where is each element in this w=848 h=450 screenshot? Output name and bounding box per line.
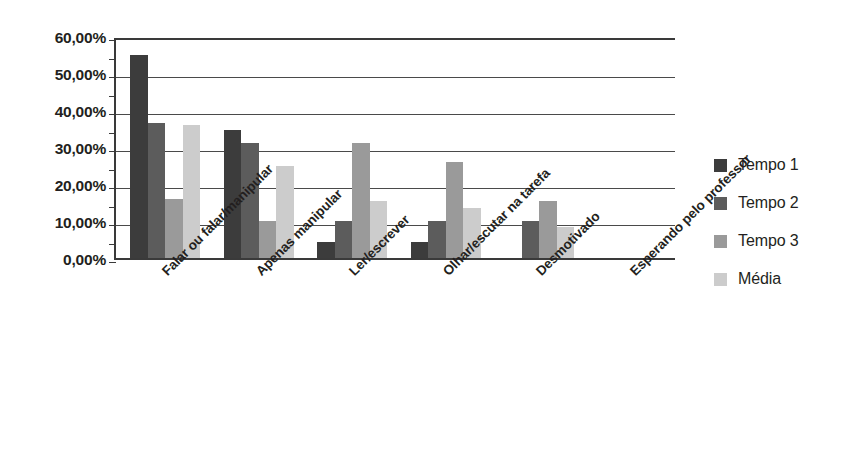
bar-chart: 60,00%50,00%40,00%30,00%20,00%10,00%0,00… xyxy=(0,0,848,450)
y-axis-label-1: 50,00% xyxy=(6,66,106,84)
y-axis-tick xyxy=(109,77,116,78)
y-axis-minor-tick xyxy=(109,207,116,208)
legend-swatch-icon xyxy=(714,159,727,172)
bar xyxy=(130,55,148,259)
legend-swatch-icon xyxy=(714,235,727,248)
y-axis-minor-tick xyxy=(109,133,116,134)
y-axis-tick-labels: 60,00%50,00%40,00%30,00%20,00%10,00%0,00… xyxy=(0,38,106,260)
bar xyxy=(352,143,370,258)
bar-group xyxy=(303,40,397,258)
y-axis-minor-tick xyxy=(109,59,116,60)
y-axis-label-0: 60,00% xyxy=(6,29,106,47)
bar-group xyxy=(397,40,491,258)
y-axis-tick xyxy=(109,40,116,41)
legend-swatch-icon xyxy=(714,273,727,286)
y-axis-tick xyxy=(109,225,116,226)
y-axis-tick xyxy=(109,151,116,152)
y-axis-label-5: 10,00% xyxy=(6,214,106,232)
bar xyxy=(428,221,446,258)
bar xyxy=(148,123,166,258)
legend-item-3[interactable]: Média xyxy=(714,260,844,298)
bar-group xyxy=(584,40,678,258)
bar-group xyxy=(210,40,304,258)
legend-swatch-icon xyxy=(714,197,727,210)
bar xyxy=(446,162,464,258)
y-axis-minor-tick xyxy=(109,96,116,97)
y-axis-minor-tick xyxy=(109,244,116,245)
bar xyxy=(411,242,429,258)
bar xyxy=(522,221,540,258)
legend-item-0[interactable]: Tempo 1 xyxy=(714,146,844,184)
chart-legend: Tempo 1Tempo 2Tempo 3Média xyxy=(714,146,844,298)
bar xyxy=(335,221,353,258)
legend-item-2[interactable]: Tempo 3 xyxy=(714,222,844,260)
legend-label: Média xyxy=(738,270,781,288)
legend-label: Tempo 1 xyxy=(738,156,799,174)
y-axis-label-4: 20,00% xyxy=(6,177,106,195)
legend-label: Tempo 3 xyxy=(738,232,799,250)
bar xyxy=(317,242,335,258)
bar-group xyxy=(116,40,210,258)
y-axis-tick xyxy=(109,114,116,115)
y-axis-tick xyxy=(109,188,116,189)
y-axis-label-2: 40,00% xyxy=(6,103,106,121)
y-axis-label-6: 0,00% xyxy=(6,251,106,269)
legend-label: Tempo 2 xyxy=(738,194,799,212)
bar-group xyxy=(490,40,584,258)
y-axis-tick xyxy=(109,262,116,263)
y-axis-minor-tick xyxy=(109,170,116,171)
legend-item-1[interactable]: Tempo 2 xyxy=(714,184,844,222)
y-axis-label-3: 30,00% xyxy=(6,140,106,158)
